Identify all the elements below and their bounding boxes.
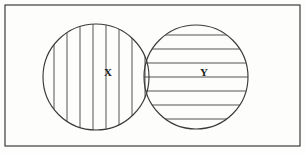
set-x-label: X (104, 66, 112, 78)
venn-diagram-canvas: X Y (0, 0, 305, 153)
set-y-label: Y (200, 66, 208, 78)
figure-background (0, 0, 305, 153)
venn-diagram-figure: X Y (0, 0, 305, 153)
